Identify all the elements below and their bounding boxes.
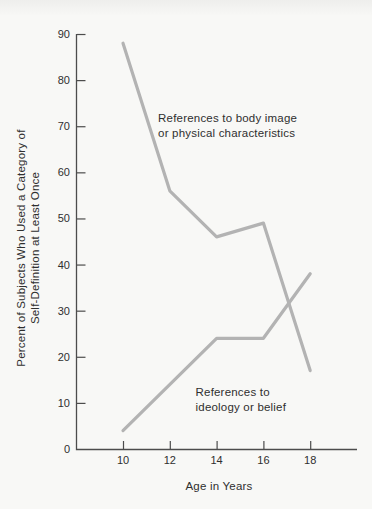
line-chart-svg: 01020304050607080901012141618Age in Year…	[0, 0, 372, 509]
y-tick-label: 70	[58, 120, 70, 132]
series-label-body-image: References to body image	[158, 112, 297, 124]
x-tick-label: 16	[257, 454, 269, 466]
y-tick-label: 20	[58, 351, 70, 363]
y-axis-title: Percent of Subjects Who Used a Category …	[15, 129, 27, 367]
figure: 01020304050607080901012141618Age in Year…	[0, 0, 372, 509]
x-tick-label: 12	[164, 454, 176, 466]
y-tick-label: 90	[58, 28, 70, 40]
y-tick-label: 10	[58, 397, 70, 409]
y-tick-label: 40	[58, 259, 70, 271]
y-tick-label: 50	[58, 212, 70, 224]
x-tick-label: 18	[304, 454, 316, 466]
y-tick-label: 30	[58, 305, 70, 317]
series-line-body-image	[123, 43, 310, 370]
series-label-body-image: or physical characteristics	[158, 127, 295, 139]
x-tick-label: 14	[210, 454, 222, 466]
y-tick-label: 60	[58, 166, 70, 178]
x-tick-label: 10	[117, 454, 129, 466]
y-tick-label: 0	[64, 443, 70, 455]
y-tick-label: 80	[58, 74, 70, 86]
x-axis-title: Age in Years	[186, 480, 253, 492]
series-label-ideology: References to	[196, 386, 270, 398]
series-label-ideology: ideology or belief	[196, 401, 287, 413]
y-axis-title: Self-Definition at Least Once	[29, 172, 41, 324]
